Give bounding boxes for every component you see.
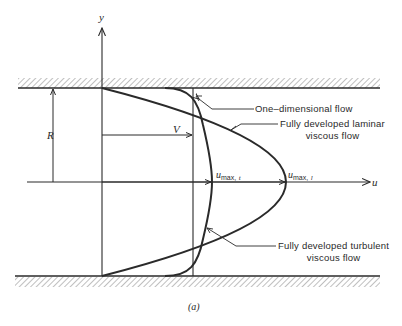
laminar-callout-arrowhead bbox=[231, 126, 236, 130]
laminar-max-subscript: max, bbox=[293, 174, 308, 181]
turbulent-max-subscript: max, bbox=[221, 174, 236, 181]
radius-label: R bbox=[47, 130, 54, 141]
callout-turbulent-line1: Fully developed turbulent bbox=[278, 240, 389, 251]
bottom-wall-hatching bbox=[15, 277, 380, 287]
uniform-velocity-label: V bbox=[173, 124, 180, 135]
callout-laminar-line1: Fully developed laminar bbox=[280, 118, 385, 129]
bottom-wall bbox=[15, 276, 380, 287]
laminar-max-velocity-label: umax, l bbox=[288, 170, 313, 182]
laminar-max-subscript-var: l bbox=[311, 174, 313, 182]
diagram-canvas bbox=[0, 0, 402, 326]
figure-caption: (a) bbox=[188, 302, 200, 312]
callout-laminar-line2: viscous flow bbox=[280, 131, 385, 141]
one-dimensional-callout-leader bbox=[199, 99, 254, 109]
turbulent-callout-arrowhead bbox=[207, 228, 213, 233]
y-axis-label: y bbox=[99, 12, 104, 23]
top-wall bbox=[18, 78, 380, 88]
pipe-flow-velocity-profile-diagram: y u R V umax, t umax, l One–dimensional … bbox=[0, 0, 402, 326]
callout-turbulent-flow: Fully developed turbulent viscous flow bbox=[278, 241, 389, 262]
top-wall-hatching bbox=[18, 78, 380, 88]
callout-one-dimensional-text: One–dimensional flow bbox=[255, 103, 352, 114]
turbulent-callout-leader bbox=[207, 228, 276, 246]
callout-turbulent-line2: viscous flow bbox=[278, 253, 389, 263]
turbulent-max-velocity-label: umax, t bbox=[216, 170, 241, 182]
callout-one-dimensional-flow: One–dimensional flow bbox=[255, 104, 352, 114]
u-axis-label: u bbox=[372, 177, 378, 188]
callout-laminar-flow: Fully developed laminar viscous flow bbox=[280, 119, 385, 140]
turbulent-max-subscript-var: t bbox=[239, 174, 241, 182]
laminar-callout-leader bbox=[231, 124, 278, 130]
